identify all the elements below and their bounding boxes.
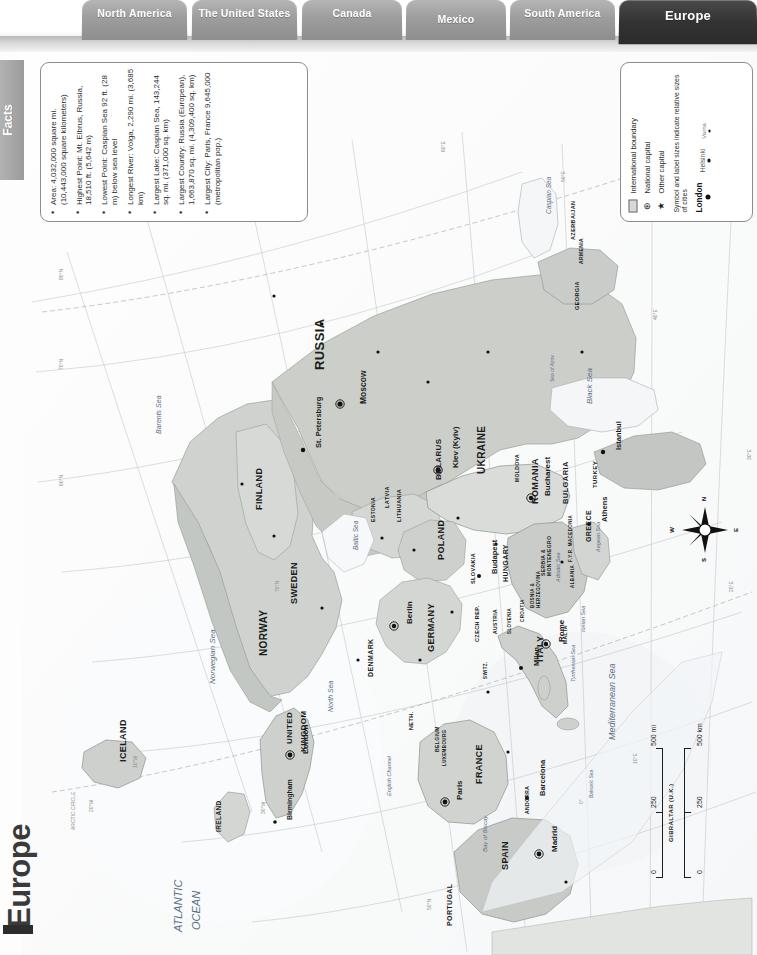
map-country-label: GERMANY bbox=[426, 603, 436, 652]
tab-label: Europe bbox=[665, 8, 711, 23]
map-city-label: St. Petersburg bbox=[314, 397, 323, 448]
fact-item: Area: 4,032,000 square mi. (10,443,000 s… bbox=[49, 68, 68, 214]
region-tab-bar: North America The United States Canada M… bbox=[0, 0, 757, 52]
map-water-label: Adriatic Sea bbox=[555, 552, 561, 582]
map-city-label: Paris bbox=[455, 780, 464, 800]
map-country-label: TURKEY bbox=[592, 461, 598, 488]
legend-city-sample: Helsinki bbox=[698, 148, 711, 172]
legend-row-other-capital: ★ Other capital bbox=[656, 72, 665, 212]
compass-label-n: N bbox=[701, 497, 707, 501]
map-graticule-label: 80°N bbox=[58, 269, 64, 280]
europe-map-page: North America The United States Canada M… bbox=[0, 0, 757, 955]
map-water-label: Tyrrhenian Sea bbox=[570, 645, 576, 682]
tab-south-america[interactable]: South America bbox=[510, 0, 616, 40]
title-rule bbox=[3, 925, 33, 934]
map-country-label: HUNGARY bbox=[502, 544, 509, 582]
map-city-label: Berlin bbox=[405, 601, 414, 624]
scale-tick bbox=[684, 877, 691, 878]
map-country-label: LUXEMBOURG bbox=[442, 730, 447, 767]
fact-item: Highest Point: Mt. Elbrus, Russia, 18,51… bbox=[75, 68, 94, 214]
map-graticule-label: 10°W bbox=[132, 756, 138, 768]
legend-city-label: Helsinki bbox=[698, 148, 705, 172]
facts-list: Area: 4,032,000 square mi. (10,443,000 s… bbox=[45, 66, 303, 218]
facts-callout-box: Area: 4,032,000 square mi. (10,443,000 s… bbox=[40, 62, 308, 222]
map-country-label: RUSSIA bbox=[312, 318, 327, 370]
map-country-label: BULGARIA bbox=[561, 461, 570, 504]
map-country-label: HERZEGOVINA bbox=[536, 571, 541, 608]
map-country-label: POLAND bbox=[436, 520, 446, 560]
tab-label: North America bbox=[97, 7, 172, 19]
map-country-label: ANDORRA bbox=[524, 786, 530, 814]
map-country-label: NETH. bbox=[408, 712, 414, 731]
map-water-label: Caspian Sea bbox=[545, 177, 552, 214]
tab-canada[interactable]: Canada bbox=[302, 0, 403, 40]
map-graticule-label: 50°N bbox=[426, 899, 432, 910]
map-city-label: London bbox=[301, 725, 310, 754]
map-city-label: Kiev (Kyiv) bbox=[451, 427, 460, 468]
map-city-label: Moscow bbox=[358, 370, 368, 404]
scale-tick bbox=[684, 748, 691, 749]
map-country-label: GEORGIA bbox=[574, 281, 580, 310]
legend-city-sample: London bbox=[694, 182, 710, 212]
map-country-label: MONTENEGRO bbox=[546, 536, 552, 576]
fact-item: Largest Country: Russia (European), 1,66… bbox=[177, 68, 196, 214]
tab-label: Mexico bbox=[438, 13, 475, 25]
tab-north-america[interactable]: North America bbox=[82, 0, 188, 40]
legend-city-size-samples: London Helsinki Varna bbox=[694, 72, 710, 212]
tab-the-united-states[interactable]: The United States bbox=[192, 0, 298, 40]
map-country-label: BOSNIA & bbox=[530, 583, 535, 608]
map-country-label: BELARUS bbox=[434, 439, 443, 480]
map-water-label: Sea of Azov bbox=[549, 355, 555, 382]
map-graticule-label: 20°W bbox=[88, 800, 94, 812]
map-country-label: ICELAND bbox=[118, 719, 128, 762]
tab-label: The United States bbox=[198, 7, 290, 19]
map-water-label: Baltic Sea bbox=[352, 521, 359, 550]
map-water-label: Norwegian Sea bbox=[208, 629, 217, 684]
national-capital-icon: ⊛ bbox=[642, 199, 651, 212]
legend-size-note: Symbol and label sizes indicate relative… bbox=[672, 72, 688, 212]
legend-city-label: London bbox=[694, 182, 703, 212]
city-dot-icon bbox=[707, 158, 711, 162]
map-country-label: IRELAND bbox=[215, 800, 222, 832]
scale-tick bbox=[656, 812, 663, 813]
map-water-label: Black Sea bbox=[585, 368, 594, 404]
fact-item: Longest River: Volga, 2,290 mi. (3,685 k… bbox=[126, 68, 145, 214]
map-water-label: English Channel bbox=[386, 756, 392, 796]
map-scale-bar: 500 mi 250 0 500 km 250 0 bbox=[628, 742, 702, 882]
tab-mexico[interactable]: Mexico bbox=[406, 0, 507, 40]
map-city-label: Budapest bbox=[490, 540, 499, 574]
scale-label-km-250: 250 bbox=[696, 796, 703, 808]
compass-rose: N S W E bbox=[678, 503, 732, 557]
city-dot-icon bbox=[708, 129, 711, 132]
facts-side-tab-label: Facts bbox=[1, 104, 15, 135]
map-country-label: ESTONIA bbox=[370, 497, 376, 522]
map-country-label: SLOVENIA bbox=[507, 608, 512, 634]
compass-label-s: S bbox=[701, 558, 707, 562]
map-water-label: Bay of Biscay bbox=[482, 816, 488, 852]
map-water-label: Ionian Sea bbox=[580, 606, 586, 632]
map-ocean-label: OCEAN bbox=[190, 891, 202, 930]
map-country-label: BELGIUM bbox=[434, 726, 440, 752]
map-country-label: DENMARK bbox=[367, 638, 374, 677]
map-country-label: LATVIA bbox=[384, 486, 390, 508]
map-city-label: Madrid bbox=[550, 826, 559, 852]
map-country-label: CZECH REP. bbox=[474, 605, 480, 642]
map-water-label: North Sea bbox=[327, 680, 334, 712]
map-water-label: Balearic Sea bbox=[588, 770, 594, 798]
tab-europe[interactable]: Europe bbox=[619, 0, 757, 44]
map-country-label: FRANCE bbox=[474, 744, 484, 784]
scale-label-mi-500: 500 mi bbox=[650, 725, 657, 746]
map-graticule-label: 30°W bbox=[260, 802, 266, 814]
legend-row-boundary: International boundary bbox=[628, 72, 637, 212]
scale-tick bbox=[684, 812, 691, 813]
legend-row-national-capital: ⊛ National capital bbox=[642, 72, 651, 212]
map-graticule-label: ARCTIC CIRCLE bbox=[70, 792, 76, 830]
legend-label-other-capital: Other capital bbox=[656, 150, 665, 193]
fact-item: Largest Lake: Caspian Sea, 143,244 sq. m… bbox=[152, 68, 171, 214]
scale-tick bbox=[656, 748, 663, 749]
map-graticule-label: 50°E bbox=[560, 171, 566, 182]
other-capital-icon: ★ bbox=[656, 199, 665, 212]
compass-label-w: W bbox=[669, 527, 675, 533]
map-city-label: Istanbul bbox=[614, 421, 623, 450]
facts-side-tab[interactable]: Facts bbox=[0, 60, 24, 180]
